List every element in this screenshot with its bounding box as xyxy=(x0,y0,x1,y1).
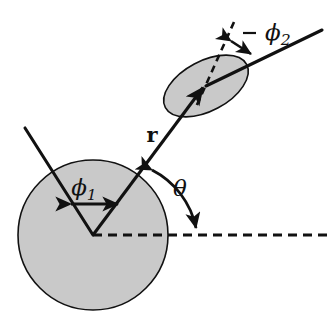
phi2-measure-arrow xyxy=(231,41,251,54)
phi2-label: ϕ2 xyxy=(265,19,291,49)
physics-diagram: ϕ1 ϕ2 θ r xyxy=(0,0,336,315)
diagram-canvas: ϕ1 ϕ2 θ r xyxy=(0,0,336,315)
r-vector-label: r xyxy=(146,122,158,147)
theta-label: θ xyxy=(173,175,187,201)
